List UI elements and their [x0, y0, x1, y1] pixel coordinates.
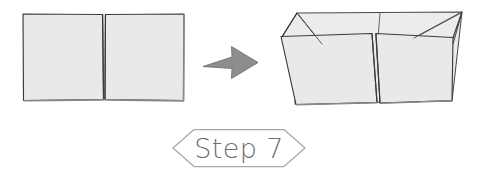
- flat-paper-bottom-shadow: [24, 100, 103, 101]
- diagram-canvas: Step 7: [0, 0, 487, 172]
- before-figure: [23, 14, 184, 101]
- step-badge-label: Step 7: [194, 133, 284, 164]
- flat-paper-left-panel: [23, 14, 104, 101]
- box-front-left-panel: [281, 34, 377, 105]
- flat-paper-center-crease-second: [105, 15, 106, 100]
- step-badge: Step 7: [173, 130, 305, 167]
- after-figure: [281, 12, 462, 105]
- flat-paper-bottom-shadow-right: [105, 100, 183, 101]
- arrow-right-icon: [203, 47, 258, 79]
- transform-arrow: [203, 47, 258, 79]
- flat-paper-right-panel: [105, 14, 184, 101]
- instruction-illustration: Step 7: [0, 0, 487, 172]
- box-front-right-panel: [376, 34, 453, 104]
